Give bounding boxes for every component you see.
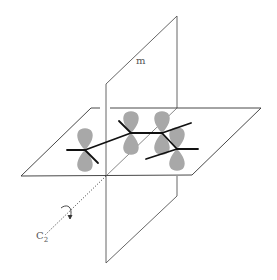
c2-axis (45, 176, 106, 235)
c2-axis-label: C2 (36, 230, 48, 244)
rotation-arrow-icon (61, 206, 72, 219)
mirror-plane-label: m (136, 55, 146, 66)
symmetry-diagram: m C2 (0, 0, 277, 280)
p-orbitals (77, 111, 184, 172)
